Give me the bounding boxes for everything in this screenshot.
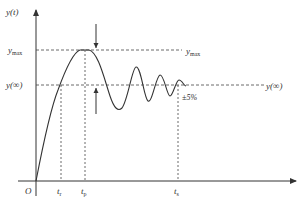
y-axis-label: y(t) [5,7,19,17]
y-inf-label-left: y(∞) [5,80,22,90]
response-curve [36,50,186,181]
origin-label: O [25,186,32,196]
t-p-label: tp [81,186,87,197]
y-inf-label-right: y(∞) [265,81,282,91]
tolerance-label: ±5% [182,93,197,102]
t-r-label: tr [57,186,62,197]
step-response-diagram: y(t) O ymax ymax y(∞) y(∞) ±5% tr tp ts [0,0,300,206]
y-max-label-right: ymax [185,46,200,57]
t-s-label: ts [174,186,180,197]
y-max-label-left: ymax [7,45,22,56]
